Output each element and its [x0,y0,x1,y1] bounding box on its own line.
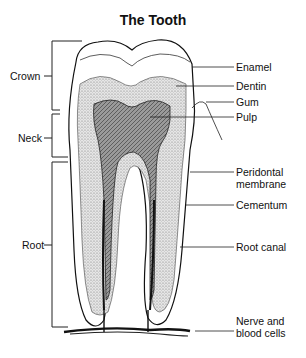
label-root-canal: Root canal [236,241,286,253]
label-periodontal-1: Peridontal [236,166,283,178]
label-gum: Gum [236,96,259,108]
label-nerve-2: blood cells [236,327,286,339]
label-neck: Neck [18,132,42,144]
label-pulp: Pulp [236,111,257,123]
label-crown: Crown [10,70,40,82]
label-dentin: Dentin [236,80,266,92]
nerve-blood-vessels [64,328,190,332]
gum [192,102,222,140]
label-root: Root [22,239,44,251]
label-cementum: Cementum [236,199,287,211]
label-periodontal-2: membrane [236,178,286,190]
label-nerve-1: Nerve and [236,315,284,327]
label-enamel: Enamel [236,61,272,73]
